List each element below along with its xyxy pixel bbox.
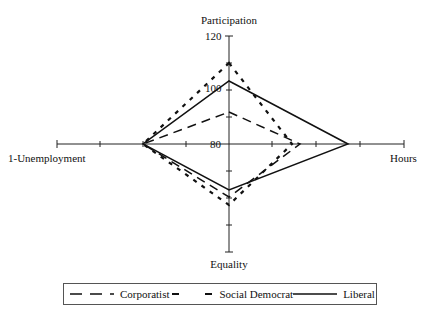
chart-legend: Corporatist Social Democrat Liberal xyxy=(63,283,377,305)
axes xyxy=(57,36,404,252)
tick-label-120: 120 xyxy=(205,30,222,42)
axis-label-equality: Equality xyxy=(210,258,248,270)
legend-swatch-short-dash xyxy=(170,290,214,298)
tick-label-80: 80 xyxy=(210,138,222,150)
radar-chart: 120 100 80 Participation Hours Equality … xyxy=(0,0,422,323)
legend-swatch-long-dash xyxy=(70,290,114,298)
series-corporatist xyxy=(143,112,300,197)
legend-item-liberal: Liberal xyxy=(293,288,375,300)
legend-item-social-democrat: Social Democrat xyxy=(170,288,294,300)
legend-item-corporatist: Corporatist xyxy=(70,288,170,300)
legend-label-liberal: Liberal xyxy=(343,288,375,300)
axis-label-unemployment: 1-Unemployment xyxy=(8,152,86,164)
axis-label-hours: Hours xyxy=(390,152,417,164)
series-liberal xyxy=(143,81,348,190)
legend-label-corporatist: Corporatist xyxy=(120,288,170,300)
legend-swatch-solid xyxy=(293,290,337,298)
axis-label-participation: Participation xyxy=(201,14,258,26)
legend-label-social-democrat: Social Democrat xyxy=(220,288,294,300)
